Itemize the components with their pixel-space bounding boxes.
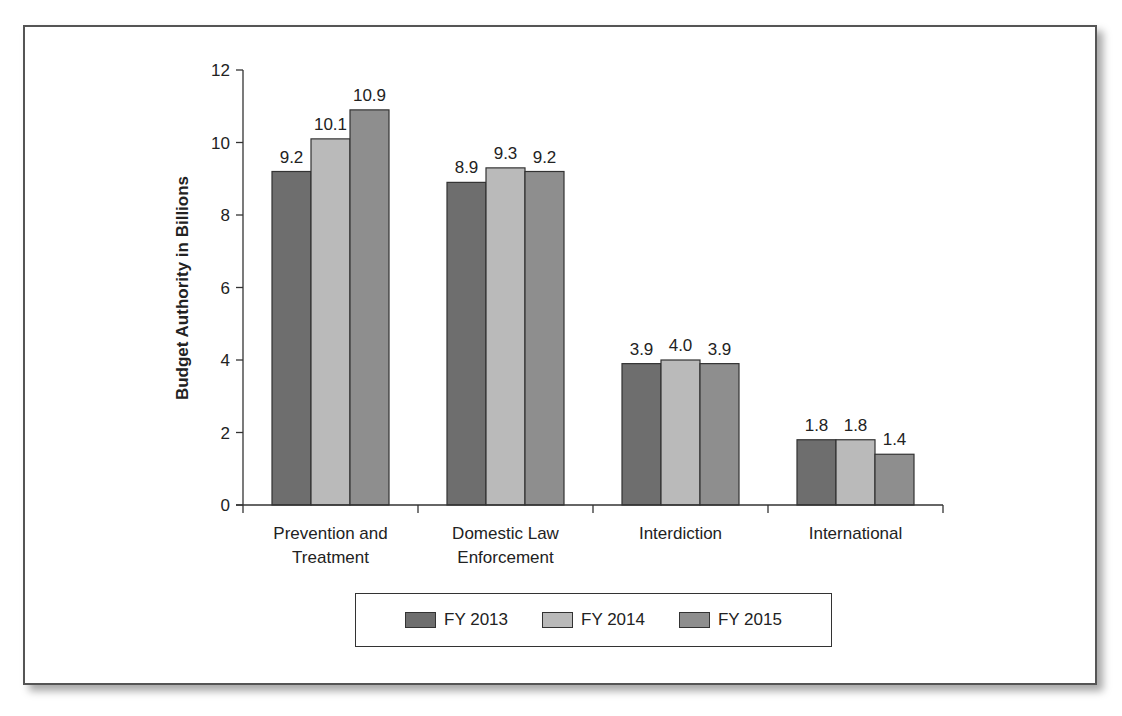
y-axis-title-text: Budget Authority in Billions	[173, 176, 193, 400]
x-category-label: Domestic Law	[452, 524, 559, 543]
data-label: 10.9	[353, 86, 386, 105]
data-label: 9.2	[280, 148, 304, 167]
y-tick-label: 4	[221, 351, 230, 370]
bar	[661, 360, 700, 505]
data-label: 3.9	[708, 340, 732, 359]
bar	[311, 139, 350, 505]
x-category-label: Prevention and	[273, 524, 387, 543]
bar	[447, 182, 486, 505]
data-label: 1.4	[883, 430, 907, 449]
bar	[836, 440, 875, 505]
data-label: 3.9	[630, 340, 654, 359]
bar	[700, 364, 739, 505]
legend-swatch-fy2014	[542, 612, 573, 628]
y-tick-label: 6	[221, 279, 230, 298]
bars-layer	[272, 110, 914, 505]
bar	[525, 172, 564, 506]
bar	[622, 364, 661, 505]
bar	[272, 172, 311, 506]
legend: FY 2013 FY 2014 FY 2015	[355, 593, 832, 647]
legend-label: FY 2013	[444, 610, 508, 630]
data-label: 1.8	[844, 416, 868, 435]
legend-label: FY 2015	[718, 610, 782, 630]
data-label: 9.2	[533, 148, 557, 167]
x-category-label: Enforcement	[457, 548, 554, 567]
bar	[797, 440, 836, 505]
legend-item-fy2014: FY 2014	[542, 610, 645, 630]
legend-item-fy2015: FY 2015	[679, 610, 782, 630]
y-tick-label: 8	[221, 206, 230, 225]
data-label: 8.9	[455, 158, 479, 177]
data-label: 10.1	[314, 115, 347, 134]
x-category-label: Treatment	[292, 548, 369, 567]
legend-item-fy2013: FY 2013	[405, 610, 508, 630]
y-tick-label: 12	[211, 61, 230, 80]
x-category-label: International	[809, 524, 903, 543]
legend-swatch-fy2013	[405, 612, 436, 628]
bar	[875, 454, 914, 505]
legend-label: FY 2014	[581, 610, 645, 630]
data-label: 9.3	[494, 144, 518, 163]
data-label: 4.0	[669, 336, 693, 355]
y-tick-label: 0	[221, 496, 230, 515]
x-category-label: Interdiction	[639, 524, 722, 543]
bar	[486, 168, 525, 505]
legend-swatch-fy2015	[679, 612, 710, 628]
y-tick-label: 2	[221, 424, 230, 443]
y-tick-label: 10	[211, 134, 230, 153]
data-label: 1.8	[805, 416, 829, 435]
bar	[350, 110, 389, 505]
